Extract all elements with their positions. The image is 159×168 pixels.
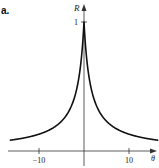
x-axis-arrow-icon [150,149,157,154]
y-axis-label: R [73,3,80,13]
y-tick-label: 1 [74,18,78,27]
chart: a. −1010 1 R θ [0,0,159,168]
x-tick-label: −10 [33,156,46,165]
x-ticks: −1010 [33,148,133,165]
x-axis-label: θ [151,154,155,163]
y-axis-arrow-icon [82,4,87,11]
x-tick-label: 10 [125,156,133,165]
panel-label: a. [1,5,10,16]
y-ticks: 1 [74,18,87,27]
